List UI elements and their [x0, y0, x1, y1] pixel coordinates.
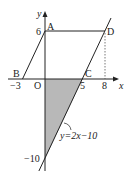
y-axis-arrow-icon: [43, 11, 48, 17]
segment-AB: [23, 31, 46, 79]
tick-y-6: 6: [36, 26, 41, 37]
tick-x-5: 5: [80, 80, 85, 91]
point-label-D: D: [107, 26, 114, 37]
coordinate-figure: y x O −3 5 8 6 −10 A B C D y=2x−10: [0, 0, 132, 171]
tick-y-neg10: −10: [24, 153, 40, 164]
origin-label: O: [34, 80, 41, 91]
tick-x-8: 8: [102, 80, 107, 91]
point-label-A: A: [47, 21, 55, 32]
equation-label: y=2x−10: [59, 130, 97, 141]
tick-x-neg3: −3: [10, 80, 21, 91]
x-axis-label: x: [118, 80, 124, 91]
point-label-C: C: [85, 68, 92, 79]
equation-leader: [64, 123, 71, 130]
point-label-B: B: [13, 68, 20, 79]
y-axis-label: y: [36, 8, 42, 19]
